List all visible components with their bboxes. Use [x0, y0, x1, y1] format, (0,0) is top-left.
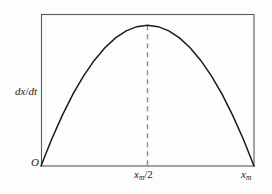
- origin-label: O: [31, 157, 39, 168]
- plot-area: [0, 0, 272, 194]
- x-tick-max-subscript: m: [246, 173, 251, 182]
- x-tick-mid-suffix: /2: [144, 168, 153, 180]
- x-tick-label-half-xm: xm/2: [134, 169, 153, 181]
- y-axis-label: dx/dt: [15, 86, 37, 97]
- x-tick-label-xm: xm: [241, 169, 251, 181]
- figure-container: dx/dt O xm/2 xm: [0, 0, 272, 194]
